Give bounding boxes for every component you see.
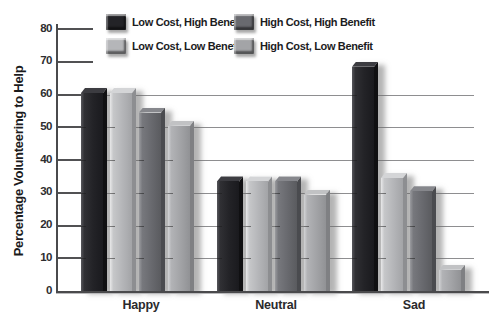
y-tick-label-30: 30: [0, 185, 52, 197]
legend-item-high-cost-low-benefit: High Cost, Low Benefit: [234, 36, 375, 55]
gridline-dash: [139, 193, 144, 194]
gridline-dash: [410, 226, 415, 227]
bar-happy-low-cost-high-benefit: [81, 88, 107, 291]
bar-front-face: [381, 178, 403, 291]
gridline-dash: [246, 258, 251, 259]
gridline-dash: [352, 193, 357, 194]
legend-label-high-cost-high-benefit: High Cost, High Benefit: [260, 16, 375, 28]
gridline-dash: [110, 193, 115, 194]
bar-happy-high-cost-high-benefit: [139, 108, 165, 291]
gridline-dash: [168, 226, 173, 227]
gridline-dash: [81, 226, 86, 227]
bar-sad-high-cost-high-benefit: [410, 186, 436, 291]
gridline-dash: [352, 160, 357, 161]
gridline-dash: [110, 160, 115, 161]
gridline-dash: [139, 127, 144, 128]
gridline-dash: [352, 95, 357, 96]
gridline-dash: [139, 258, 144, 259]
bar-front-face: [410, 191, 432, 291]
legend-item-low-cost-high-benefit: Low Cost, High Benefit: [106, 12, 234, 31]
gridline-dash: [217, 226, 222, 227]
bar-side-face: [403, 173, 407, 291]
bar-side-face: [326, 190, 330, 292]
y-tick-label-20: 20: [0, 218, 52, 230]
bar-sad-low-cost-low-benefit: [381, 173, 407, 291]
bar-neutral-high-cost-low-benefit: [304, 190, 330, 292]
bar-front-face: [168, 126, 190, 291]
gridline-dash: [110, 127, 115, 128]
gridline-dash: [139, 160, 144, 161]
y-tick-label-40: 40: [0, 153, 52, 165]
y-tick-label-10: 10: [0, 251, 52, 263]
bar-front-face: [217, 181, 239, 291]
gridline-dash: [352, 226, 357, 227]
y-tick-label-0: 0: [0, 284, 52, 296]
bar-side-face: [297, 176, 301, 291]
gridline-dash: [352, 127, 357, 128]
gridline-dash: [81, 258, 86, 259]
bar-side-face: [132, 88, 136, 291]
x-label-neutral: Neutral: [231, 298, 321, 312]
bar-front-face: [246, 181, 268, 291]
gridline-dash: [139, 226, 144, 227]
gridline-dash: [217, 193, 222, 194]
x-label-happy: Happy: [96, 298, 186, 312]
gridline-dash: [381, 226, 386, 227]
legend-swatch-low-cost-high-benefit: [106, 14, 126, 30]
bar-sad-low-cost-high-benefit: [352, 62, 378, 291]
bar-side-face: [268, 176, 272, 291]
legend: Low Cost, High BenefitHigh Cost, High Be…: [106, 12, 375, 55]
gridline-dash: [275, 193, 280, 194]
bar-happy-low-cost-low-benefit: [110, 88, 136, 291]
bar-side-face: [239, 176, 243, 291]
legend-item-low-cost-low-benefit: Low Cost, Low Benefit: [106, 36, 234, 55]
bar-side-face: [161, 108, 165, 291]
y-tick-label-70: 70: [0, 54, 52, 66]
x-label-sad: Sad: [369, 298, 459, 312]
y-tick-label-80: 80: [0, 22, 52, 34]
legend-swatch-high-cost-high-benefit: [234, 14, 254, 30]
y-tick-80: [57, 28, 93, 30]
x-axis-line: [56, 291, 489, 294]
bar-side-face: [190, 121, 194, 291]
legend-label-low-cost-low-benefit: Low Cost, Low Benefit: [132, 40, 243, 52]
gridline-dash: [110, 258, 115, 259]
legend-label-high-cost-low-benefit: High Cost, Low Benefit: [260, 40, 373, 52]
bar-happy-high-cost-low-benefit: [168, 121, 194, 291]
bar-sad-high-cost-low-benefit: [439, 265, 465, 291]
gridline-dash: [381, 258, 386, 259]
y-axis-line: [56, 24, 58, 292]
bar-side-face: [103, 88, 107, 291]
gridline-dash: [217, 258, 222, 259]
y-tick-label-60: 60: [0, 87, 52, 99]
y-tick-label-50: 50: [0, 120, 52, 132]
gridline-dash: [275, 226, 280, 227]
legend-label-low-cost-high-benefit: Low Cost, High Benefit: [132, 16, 245, 28]
legend-item-high-cost-high-benefit: High Cost, High Benefit: [234, 12, 375, 31]
gridline-dash: [81, 127, 86, 128]
gridline-dash: [246, 226, 251, 227]
gridline-dash: [168, 193, 173, 194]
gridline-dash: [304, 226, 309, 227]
bar-front-face: [275, 181, 297, 291]
gridline-dash: [168, 258, 173, 259]
gridline-dash: [81, 160, 86, 161]
gridline-dash: [110, 226, 115, 227]
bar-front-face: [304, 195, 326, 292]
gridline-dash: [168, 160, 173, 161]
gridline-dash: [381, 193, 386, 194]
y-tick-70: [57, 61, 93, 63]
bar-front-face: [139, 113, 161, 291]
bar-front-face: [439, 270, 461, 291]
bar-side-face: [374, 62, 378, 291]
gridline-dash: [246, 193, 251, 194]
bar-side-face: [432, 186, 436, 291]
gridline-dash: [275, 258, 280, 259]
gridline-dash: [81, 193, 86, 194]
legend-swatch-high-cost-low-benefit: [234, 38, 254, 54]
gridline-dash: [410, 258, 415, 259]
bar-chart-figure: Percentage Volunteering to Help 01020304…: [0, 0, 497, 330]
legend-swatch-low-cost-low-benefit: [106, 38, 126, 54]
gridline-dash: [352, 258, 357, 259]
gridline-dash: [304, 258, 309, 259]
